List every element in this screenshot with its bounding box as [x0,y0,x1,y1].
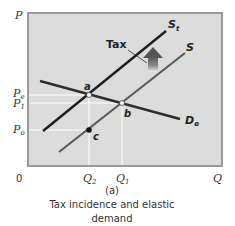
caption-line-2: demand [91,213,132,224]
caption-line-1: Tax incidence and elastic [48,199,174,210]
point-c [86,127,92,133]
tax-incidence-diagram: a b c St S De Tax P Q 0 Pe P1 Po Q2 Q1 (… [0,0,235,226]
tax-label: Tax [106,38,127,51]
origin-label: 0 [16,173,22,184]
x-axis-label: Q [213,172,222,185]
panel-label: (a) [105,185,119,196]
y-axis-label: P [14,9,23,22]
price-tick-po: Po [12,123,25,137]
supply-label: S [186,41,194,54]
point-a [87,93,92,98]
point-c-label: c [93,131,99,142]
quantity-tick-q2: Q2 [83,172,97,186]
point-b-label: b [124,108,131,119]
plot-area [28,13,222,166]
point-a-label: a [84,81,91,92]
quantity-tick-q1: Q1 [116,172,130,186]
point-b [120,101,125,106]
